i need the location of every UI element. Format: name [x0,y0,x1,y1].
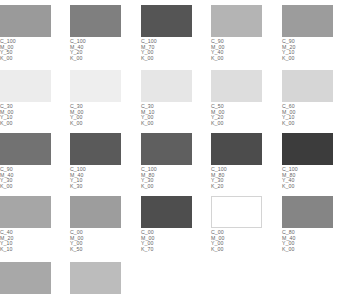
color-swatch [282,70,333,102]
color-swatch-card: C_50M_00Y_20K_00 [211,70,263,126]
cmyk-label: C_30M_00Y_10K_00 [0,104,52,126]
cmyk-label: C_100M_70Y_00K_00 [141,39,193,61]
cmyk-label: C_90M_00Y_40K_00 [211,39,263,61]
black-value: K_20 [211,184,263,190]
black-value: K_00 [141,121,193,127]
cmyk-label: C_30M_10Y_00K_00 [141,104,193,126]
cmyk-label: C_100M_00Y_50K_00 [0,39,52,61]
color-swatch [211,133,262,165]
color-swatch [70,70,121,102]
color-swatch [282,5,333,37]
cmyk-label: C_00M_00Y_00K_70 [141,230,193,252]
color-swatch-card: C_00M_00Y_00K_70 [141,196,193,252]
color-swatch-card: C_100M_80Y_40K_00 [282,133,334,189]
cmyk-label: C_100M_40Y_20K_00 [70,39,122,61]
color-swatch-card: C_90M_40Y_30K_00 [0,133,52,189]
color-swatch [70,262,121,294]
black-value: K_00 [0,184,52,190]
color-swatch [211,70,262,102]
cmyk-label: C_40M_20Y_10K_10 [0,230,52,252]
color-swatch-card: C_40M_20Y_10K_10 [0,196,52,252]
color-swatch [211,5,262,37]
cmyk-label: C_30M_00Y_00K_00 [70,104,122,126]
color-swatch-card: C_60M_00Y_10K_00 [282,70,334,126]
cmyk-label: C_00M_00Y_00K_50 [70,230,122,252]
cmyk-label: C_100M_80Y_30K_20 [211,167,263,189]
black-value: K_10 [0,247,52,253]
color-swatch-card: C_100M_70Y_00K_00 [141,5,193,61]
black-value: K_00 [0,121,52,127]
color-swatch-card: C_90M_00Y_40K_00 [211,5,263,61]
cmyk-label: C_90M_40Y_30K_00 [0,167,52,189]
color-swatch-card: C_100M_40Y_10K_30 [70,133,122,189]
black-value: K_00 [282,184,334,190]
black-value: K_00 [0,56,52,62]
color-swatch-card [0,262,52,294]
cmyk-label: C_100M_40Y_10K_30 [70,167,122,189]
cmyk-label: C_00M_00Y_00K_00 [211,230,263,252]
color-swatch-card: C_100M_80Y_30K_20 [211,133,263,189]
black-value: K_00 [70,121,122,127]
color-swatch-card [70,262,122,294]
color-swatch-card: C_30M_00Y_10K_00 [0,70,52,126]
color-swatch [282,196,333,228]
color-swatch [0,5,51,37]
color-swatch [70,133,121,165]
color-swatch-card: C_00M_00Y_00K_50 [70,196,122,252]
cmyk-label: C_100M_80Y_40K_00 [282,167,334,189]
color-swatch [0,133,51,165]
color-swatch [70,196,121,228]
color-swatch [211,196,262,228]
color-swatch [0,262,51,294]
cmyk-label: C_50M_00Y_20K_00 [211,104,263,126]
color-swatch [0,70,51,102]
color-swatch-card: C_100M_80Y_30K_00 [141,133,193,189]
cmyk-label: C_100M_80Y_30K_00 [141,167,193,189]
color-swatch-card: C_90M_20Y_10K_00 [282,5,334,61]
color-swatch-card: C_30M_10Y_00K_00 [141,70,193,126]
black-value: K_30 [70,184,122,190]
black-value: K_00 [141,184,193,190]
color-swatch-card: C_100M_00Y_50K_00 [0,5,52,61]
color-swatch [141,5,192,37]
black-value: K_00 [211,56,263,62]
black-value: K_00 [211,247,263,253]
black-value: K_70 [141,247,193,253]
color-swatch [0,196,51,228]
color-swatch-card: C_100M_40Y_20K_00 [70,5,122,61]
color-swatch-card: C_30M_00Y_00K_00 [70,70,122,126]
black-value: K_00 [282,56,334,62]
color-swatch-card: C_00M_00Y_00K_00 [211,196,263,252]
cmyk-label: C_80M_40Y_00K_00 [282,230,334,252]
black-value: K_00 [211,121,263,127]
black-value: K_50 [70,247,122,253]
color-swatch [141,133,192,165]
black-value: K_00 [282,121,334,127]
cmyk-label: C_90M_20Y_10K_00 [282,39,334,61]
black-value: K_00 [282,247,334,253]
color-swatch [282,133,333,165]
color-swatch [141,70,192,102]
color-swatch [141,196,192,228]
color-swatch [70,5,121,37]
black-value: K_00 [141,56,193,62]
black-value: K_00 [70,56,122,62]
cmyk-label: C_60M_00Y_10K_00 [282,104,334,126]
color-swatch-card: C_80M_40Y_00K_00 [282,196,334,252]
